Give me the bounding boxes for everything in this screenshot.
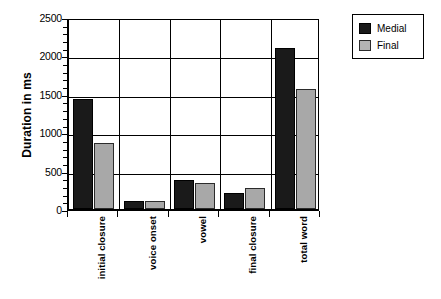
legend-swatch-medial-icon: [359, 23, 371, 34]
x-tick: [319, 211, 320, 217]
bar-final-initial-closure: [94, 143, 114, 209]
bar-medial-total-word: [275, 48, 295, 209]
legend-item-final: Final: [359, 37, 423, 54]
x-axis-labels: initial closurevoice onsetvowelfinal clo…: [67, 216, 319, 296]
y-axis-title: Duration in ms: [20, 72, 34, 157]
y-axis-title-holder: Duration in ms: [8, 19, 22, 211]
bar-medial-final-closure: [224, 193, 244, 209]
bars-layer: [69, 20, 318, 209]
legend-box: Medial Final: [352, 14, 424, 59]
y-tick-label: 1500: [24, 90, 62, 100]
bar-final-vowel: [195, 183, 215, 209]
legend-label-final: Final: [377, 40, 399, 51]
bar-medial-vowel: [174, 180, 194, 209]
legend-swatch-final-icon: [359, 40, 371, 51]
y-tick-label: 2000: [24, 51, 62, 61]
x-label-voice-onset: voice onset: [147, 216, 158, 270]
x-label-total-word: total word: [298, 216, 309, 263]
y-tick-label: 1000: [24, 128, 62, 138]
bar-final-final-closure: [245, 188, 265, 209]
bar-medial-voice-onset: [124, 201, 144, 209]
bar-final-total-word: [296, 89, 316, 209]
legend-label-medial: Medial: [377, 23, 406, 34]
bar-medial-initial-closure: [73, 99, 93, 209]
y-tick-label: 0: [24, 205, 62, 215]
plot-area: [67, 19, 319, 211]
x-label-vowel: vowel: [197, 216, 208, 243]
chart-figure: Duration in ms 05001000150020002500 init…: [0, 0, 441, 299]
x-label-initial-closure: initial closure: [96, 216, 107, 279]
y-tick-label: 2500: [24, 13, 62, 23]
bar-final-voice-onset: [145, 201, 165, 209]
x-label-final-closure: final closure: [247, 216, 258, 274]
legend-item-medial: Medial: [359, 20, 423, 37]
y-tick-label: 500: [24, 167, 62, 177]
